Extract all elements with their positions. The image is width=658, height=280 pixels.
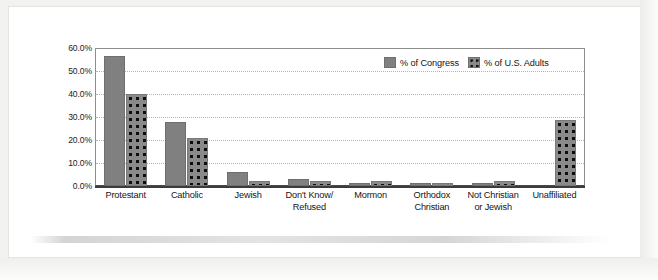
legend-label-us-adults: % of U.S. Adults — [484, 58, 549, 68]
bar-chart: 0.0%10.0%20.0%30.0%40.0%50.0%60.0% Prote… — [30, 26, 605, 231]
page-edge-right — [640, 0, 658, 280]
plot-area — [95, 48, 585, 186]
y-axis: 0.0%10.0%20.0%30.0%40.0%50.0%60.0% — [30, 48, 92, 186]
x-axis-baseline — [95, 186, 585, 188]
gridline — [96, 117, 584, 118]
y-axis-tick-label: 30.0% — [32, 113, 92, 122]
y-axis-tick-label: 50.0% — [32, 67, 92, 76]
gridline — [96, 140, 584, 141]
gridline — [96, 71, 584, 72]
gridline — [96, 94, 584, 95]
page-edge-bottom — [0, 258, 658, 280]
legend-label-congress: % of Congress — [400, 58, 459, 68]
y-axis-tick-label: 20.0% — [32, 136, 92, 145]
x-axis-tick-label-line: Unaffiliated — [518, 190, 591, 202]
x-axis-tick-label-line: Refused — [273, 202, 346, 214]
legend-item-congress: % of Congress — [384, 57, 459, 68]
y-axis-tick-label: 60.0% — [32, 44, 92, 53]
legend-item-us-adults: % of U.S. Adults — [468, 57, 549, 68]
y-axis-tick-label: 40.0% — [32, 90, 92, 99]
y-axis-tick-label: 10.0% — [32, 159, 92, 168]
chart-legend: % of Congress % of U.S. Adults — [384, 57, 549, 68]
x-axis-tick-label-line: or Jewish — [457, 202, 530, 214]
gridline — [96, 163, 584, 164]
y-axis-tick-label: 0.0% — [32, 182, 92, 191]
legend-swatch-congress — [384, 57, 396, 68]
legend-swatch-us-adults — [468, 57, 480, 68]
scan-artifact-smudge — [30, 236, 610, 243]
x-axis-tick-label: Unaffiliated — [518, 190, 591, 202]
